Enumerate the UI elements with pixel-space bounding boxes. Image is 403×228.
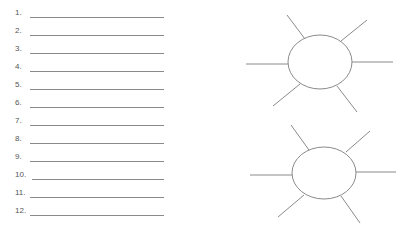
ray-line xyxy=(341,20,367,41)
sun-web-diagram-bottom xyxy=(250,125,396,223)
ray-line xyxy=(346,131,370,152)
ray-line xyxy=(341,196,360,223)
sun-web-diagrams xyxy=(0,0,403,228)
ray-line xyxy=(291,125,309,150)
ray-line xyxy=(278,195,304,217)
center-oval[interactable] xyxy=(288,35,352,89)
ray-line xyxy=(287,15,305,39)
ray-line xyxy=(273,84,300,106)
sun-web-diagram-top xyxy=(246,15,393,112)
ray-line xyxy=(337,86,357,112)
center-oval[interactable] xyxy=(292,147,356,199)
